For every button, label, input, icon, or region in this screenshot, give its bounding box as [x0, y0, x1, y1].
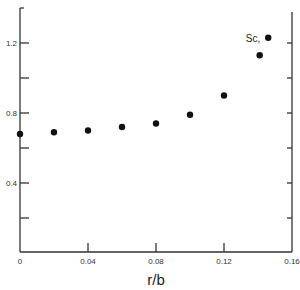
tick-labels: 00.040.080.120.160.40.81.2	[6, 39, 300, 266]
tick-marks	[20, 43, 292, 252]
axes	[20, 8, 292, 252]
x-axis-title: r/b	[147, 271, 165, 288]
y-tick-label: 1.2	[6, 39, 18, 48]
data-point	[257, 52, 263, 58]
data-point	[119, 124, 125, 130]
x-tick-label: 0.16	[284, 257, 300, 266]
scatter-chart: 00.040.080.120.160.40.81.2 Sc, r/b	[0, 0, 300, 290]
point-annotation: Sc,	[246, 33, 260, 44]
x-tick-label: 0.04	[80, 257, 96, 266]
data-points	[17, 35, 272, 138]
x-tick-label: 0.08	[148, 257, 164, 266]
data-point	[51, 129, 57, 135]
data-point	[153, 120, 159, 126]
x-tick-label: 0	[18, 257, 23, 266]
data-point	[265, 35, 271, 41]
y-tick-label: 0.4	[6, 179, 18, 188]
y-tick-label: 0.8	[6, 109, 18, 118]
data-point	[221, 92, 227, 98]
data-point	[85, 127, 91, 133]
x-tick-label: 0.12	[216, 257, 232, 266]
data-point	[17, 131, 23, 137]
annotations: Sc,	[246, 33, 260, 44]
data-point	[187, 112, 193, 118]
